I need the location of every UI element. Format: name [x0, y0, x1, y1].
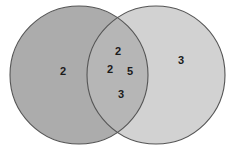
right-only-count-label: 3 — [173, 55, 189, 66]
intersection-count-label-right: 5 — [122, 66, 138, 77]
intersection-count-label-top: 2 — [110, 46, 126, 57]
intersection-count-label-bottom: 3 — [113, 89, 129, 100]
left-only-count-label: 2 — [55, 66, 71, 77]
intersection-count-label-left: 2 — [102, 64, 118, 75]
venn-diagram-figure: 2 2 2 5 3 3 — [0, 0, 233, 149]
